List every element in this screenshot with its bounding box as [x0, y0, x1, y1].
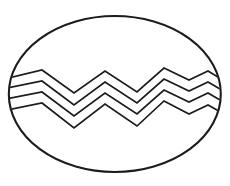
zigzag-stripe	[2, 101, 226, 128]
egg-drawing	[0, 0, 230, 186]
zigzag-stripes	[1, 68, 227, 128]
egg-svg	[0, 0, 230, 186]
egg-outline	[9, 16, 221, 172]
zigzag-stripe	[2, 79, 227, 105]
